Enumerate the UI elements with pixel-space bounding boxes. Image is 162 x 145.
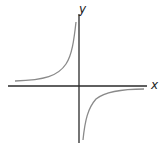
curve-branch-quadrant-II <box>15 22 76 81</box>
curve-branch-quadrant-IV <box>83 89 144 140</box>
x-axis-label: x <box>150 78 159 92</box>
hyperbola-plot: x y <box>0 0 162 145</box>
y-axis-label: y <box>78 2 87 16</box>
